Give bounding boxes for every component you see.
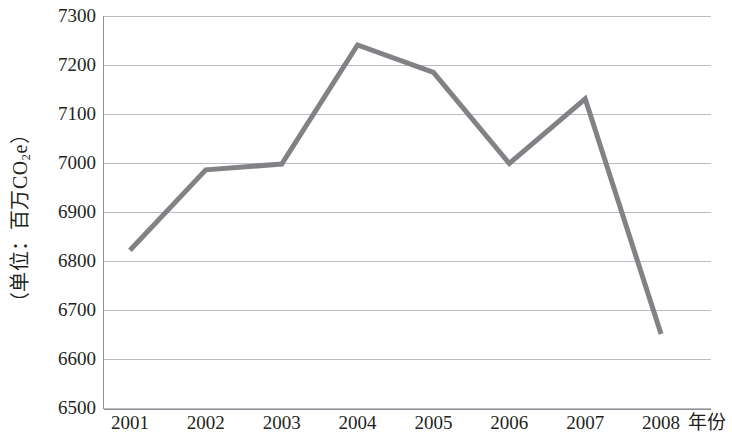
x-axis-tick-labels: 20012002200320042005200620072008 (104, 412, 711, 435)
y-axis-tick-labels: 730072007100700069006800670066006500 (34, 0, 96, 435)
y-axis-title-text: （单位：百万CO2e） (4, 123, 34, 311)
y-axis-title-subscript: 2 (19, 153, 33, 160)
x-axis-tick-label: 2002 (166, 412, 246, 434)
y-axis-tick-label: 6800 (34, 251, 96, 270)
plot-area (104, 16, 711, 408)
y-axis-title-suffix: e） (9, 123, 31, 153)
x-axis-tick-label: 2004 (318, 412, 398, 434)
x-axis-tick-label: 2005 (393, 412, 473, 434)
x-axis-tick-label: 2006 (469, 412, 549, 434)
y-axis-tick-label: 6500 (34, 398, 96, 417)
y-axis-tick-label: 7200 (34, 55, 96, 74)
x-axis-tick-label: 2003 (242, 412, 322, 434)
y-axis-title-prefix: （单位：百万CO (9, 160, 31, 312)
y-axis-tick-label: 6900 (34, 202, 96, 221)
y-axis-tick-label: 6700 (34, 300, 96, 319)
series-polyline (130, 45, 661, 334)
x-axis-title: 年份 (688, 412, 726, 434)
data-series-line (104, 16, 711, 408)
x-axis-tick-label: 2001 (90, 412, 170, 434)
y-axis-tick-label: 7100 (34, 104, 96, 123)
y-axis-tick-label: 7300 (34, 6, 96, 25)
x-axis-tick-label: 2007 (545, 412, 625, 434)
line-chart: （单位：百万CO2e） 7300720071007000690068006700… (0, 0, 732, 435)
y-axis-tick-label: 7000 (34, 153, 96, 172)
y-axis-tick-label: 6600 (34, 349, 96, 368)
y-axis-title: （单位：百万CO2e） (0, 0, 38, 435)
gridline (104, 408, 711, 409)
